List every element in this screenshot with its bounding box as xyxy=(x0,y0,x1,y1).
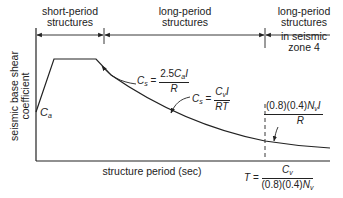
fraction: Cv (0.8)(0.4)Nv xyxy=(262,164,314,193)
fraction: (0.8)(0.4)NvI R xyxy=(264,100,323,126)
cs-min-equation: (0.8)(0.4)NvI R xyxy=(264,100,323,126)
y-axis-label: seismic base shear coefficient xyxy=(9,41,33,151)
leader-arrow-plateau xyxy=(102,66,136,84)
region-label-line4: zone 4 xyxy=(266,42,342,53)
fraction: 2.5CaI R xyxy=(159,68,189,94)
cs-decay-equation: Cs = CvI RT xyxy=(192,86,230,112)
y-axis-label-line2: coefficient xyxy=(20,41,31,151)
leader-arrow-min xyxy=(274,127,278,141)
region-label-line2: structures xyxy=(120,17,250,28)
region-label-line2: structures xyxy=(36,17,104,28)
fraction: CvI RT xyxy=(214,86,230,112)
cs-plateau-equation: Cs = 2.5CaI R xyxy=(137,68,189,94)
region-label-long-period: long-period structures xyxy=(120,6,250,28)
region-label-zone4: long-period structures in seismic zone 4 xyxy=(266,6,342,53)
region-label-short-period: short-period structures xyxy=(36,6,104,28)
x-axis-label: structure period (sec) xyxy=(92,166,212,177)
ca-label: Ca xyxy=(40,106,52,119)
region-label-line2: structures xyxy=(266,17,342,28)
t-boundary-equation: T = Cv (0.8)(0.4)Nv xyxy=(244,164,313,193)
